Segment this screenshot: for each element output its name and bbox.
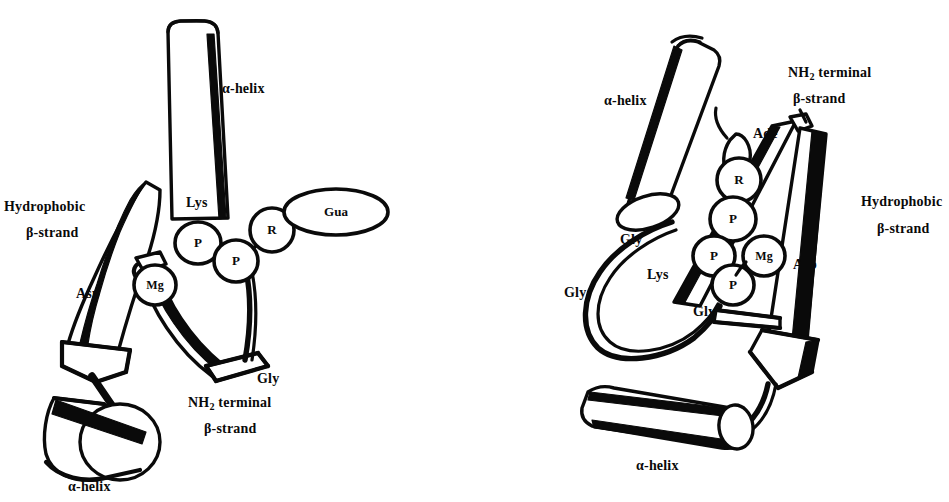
label-lys-right: Lys: [647, 268, 669, 283]
node-label-guanine-left: Gua: [324, 204, 348, 220]
label-alpha-helix-top-right: α-helix: [604, 94, 647, 109]
nh2-tail: terminal: [215, 395, 272, 410]
label-hydrophobic-beta-strand-left: β-strand: [26, 226, 79, 241]
label-asp-right: Asp: [793, 258, 817, 273]
node-label-phosphate-1-right: P: [729, 211, 737, 227]
label-ade-right: Ade: [753, 127, 778, 142]
backbone-loop-left: [245, 270, 256, 360]
label-lys-left: Lys: [186, 196, 208, 211]
nh2-tail: terminal: [815, 65, 872, 80]
label-gly-3-right: Gly: [693, 305, 715, 320]
alpha-helix-cylinder-bottom-left: [44, 398, 160, 480]
node-label-ribose-left: R: [267, 222, 276, 238]
alpha-helix-cylinder-bottom-right: [582, 387, 756, 451]
alpha-helix-cylinder-top-right: [613, 36, 720, 237]
nh2-text: NH: [188, 395, 209, 410]
node-label-phosphate-3-right: P: [729, 277, 737, 293]
label-nh2-terminal-right: NH2 terminal: [788, 66, 871, 82]
label-nh2-terminal-left: NH2 terminal: [188, 396, 271, 412]
label-gly-2-right: Gly: [564, 286, 586, 301]
alpha-helix-cylinder-vertical: [168, 21, 228, 220]
node-label-phosphate-2-left: P: [232, 253, 240, 269]
label-gly-left: Gly: [257, 372, 279, 387]
label-alpha-helix-bottom-left: α-helix: [68, 480, 111, 495]
node-label-phosphate-2-right: P: [710, 248, 718, 264]
label-hydrophobic-right: Hydrophobic: [861, 195, 942, 210]
node-label-magnesium-right: Mg: [755, 249, 772, 264]
nh2-text: NH: [788, 65, 809, 80]
label-hydrophobic-beta-strand-right: β-strand: [877, 222, 930, 237]
label-alpha-helix-top-left: α-helix: [222, 82, 265, 97]
strand-connector-right: [714, 310, 780, 328]
label-gly-1-right: Gly: [620, 233, 642, 248]
node-label-magnesium-left: Mg: [146, 278, 163, 293]
label-nh2-beta-strand-right: β-strand: [793, 92, 846, 107]
label-nh2-beta-strand-left: β-strand: [204, 422, 257, 437]
figure-canvas: .ink { fill:none; stroke:#0a0a0a; stroke…: [0, 0, 949, 502]
node-label-ribose-right: R: [734, 172, 743, 188]
label-asp-left: Asp: [76, 287, 100, 302]
node-label-phosphate-1-left: P: [194, 235, 202, 251]
label-hydrophobic-left: Hydrophobic: [4, 200, 85, 215]
label-alpha-helix-bottom-right: α-helix: [636, 459, 679, 474]
